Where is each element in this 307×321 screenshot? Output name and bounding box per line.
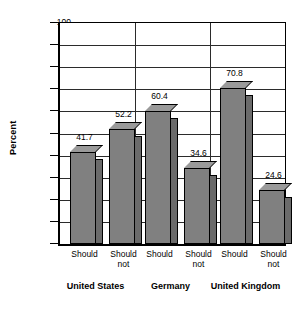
bar-top-face (70, 145, 103, 152)
y-axis-tick-mark (50, 88, 58, 89)
bar-side-face (285, 197, 292, 244)
bar-value-label: 24.6 (251, 171, 296, 180)
bar-value-label: 52.2 (101, 110, 146, 119)
bar-top-face (145, 104, 178, 111)
y-axis-tick-mark (50, 44, 58, 45)
bar-front-face (70, 152, 96, 244)
y-axis-tick-mark (50, 243, 58, 244)
y-axis-title: Percent (6, 108, 20, 168)
bar-side-face (171, 118, 178, 244)
bar-top-face (259, 183, 292, 190)
y-axis-tick-mark (50, 199, 58, 200)
bar (70, 152, 96, 244)
bar-front-face (184, 168, 210, 244)
bar (184, 168, 210, 244)
bar-front-face (145, 111, 171, 244)
category-label-line1: Should (250, 249, 297, 259)
gridline (60, 89, 285, 90)
category-label-line2: not (175, 259, 222, 269)
category-label-line2: not (250, 259, 297, 269)
bar (109, 129, 135, 244)
bar-value-label: 60.4 (137, 92, 182, 101)
bar-front-face (259, 190, 285, 244)
y-axis-tick-mark (50, 110, 58, 111)
bar-side-face (135, 136, 142, 244)
bar-chart: Percent 0102030405060708090100 41.752.26… (0, 0, 307, 321)
category-label-line2: not (100, 259, 147, 269)
gridline (60, 45, 285, 46)
bar-side-face (96, 159, 103, 244)
bar-top-face (220, 81, 253, 88)
y-axis-tick-mark (50, 66, 58, 67)
bar-side-face (210, 175, 217, 244)
x-axis-category-label: Shouldnot (250, 249, 297, 269)
bar-value-label: 70.8 (212, 69, 257, 78)
y-axis-tick-mark (50, 22, 58, 23)
y-axis-tick-mark (50, 155, 58, 156)
bar-top-face (184, 161, 217, 168)
bar-value-label: 41.7 (62, 133, 107, 142)
bar-side-face (246, 95, 253, 244)
bar (145, 111, 171, 244)
bar-top-face (109, 122, 142, 129)
bar-front-face (220, 88, 246, 244)
y-axis-tick-mark (50, 133, 58, 134)
bar (220, 88, 246, 244)
y-axis-tick-mark (50, 177, 58, 178)
bar (259, 190, 285, 244)
x-axis-group-label: United Kingdom (200, 281, 291, 291)
bar-front-face (109, 129, 135, 244)
bar-value-label: 34.6 (176, 149, 221, 158)
y-axis-tick-mark (50, 221, 58, 222)
